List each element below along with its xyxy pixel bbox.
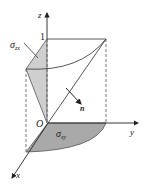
sigma-zx-label: σzx bbox=[10, 39, 20, 51]
diagram-canvas: z 1 σzx n O y σxy x bbox=[0, 0, 148, 189]
normal-arrow bbox=[66, 88, 81, 104]
z-label: z bbox=[37, 10, 42, 20]
tick-one: 1 bbox=[40, 31, 45, 42]
sigma-zx-region bbox=[26, 39, 47, 123]
sigma-zx-pointer bbox=[24, 43, 38, 58]
origin-label: O bbox=[36, 118, 43, 129]
diagonal bbox=[48, 39, 106, 123]
n-label: n bbox=[80, 104, 85, 113]
y-label: y bbox=[129, 127, 134, 137]
stress-diagram: z 1 σzx n O y σxy x bbox=[0, 0, 148, 189]
x-label: x bbox=[15, 170, 20, 180]
